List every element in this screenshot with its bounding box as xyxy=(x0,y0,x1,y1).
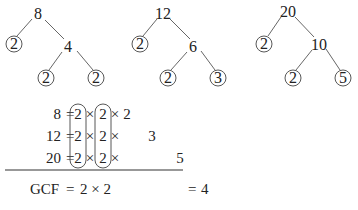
tree3-edge xyxy=(296,50,312,70)
tree2-edge xyxy=(201,51,215,70)
row3-factor5: 5 xyxy=(176,150,184,166)
row2-times: × xyxy=(111,128,119,144)
tree1-root: 8 xyxy=(34,5,42,22)
tree3-composite: 10 xyxy=(311,36,327,53)
tree1-composite: 4 xyxy=(64,38,72,55)
row1-factor2: 2 xyxy=(99,106,107,122)
gcf-label: GCF xyxy=(30,181,59,197)
row1-factor1: 2 xyxy=(74,106,82,122)
tree1-edge xyxy=(45,20,64,39)
gcf-equals: = xyxy=(66,181,74,197)
row3-times: × xyxy=(86,150,94,166)
tree2-edge xyxy=(171,52,187,70)
row2-times: × xyxy=(86,128,94,144)
gcf-factor-tree-diagram: 8 2 4 2 2 12 2 6 2 3 20 2 10 2 5 8 12 20… xyxy=(0,0,358,210)
tree1-prime-leaf: 2 xyxy=(42,69,50,86)
row3-factor2: 2 xyxy=(99,150,107,166)
gcf-expression: 2 × 2 xyxy=(80,181,111,197)
row1-number: 8 xyxy=(54,106,62,122)
tree2-prime-leaf: 3 xyxy=(214,69,222,86)
tree3-prime-leaf: 5 xyxy=(339,69,347,86)
tree2-edge xyxy=(170,19,190,39)
row2-factor4: 3 xyxy=(148,128,156,144)
row1-times: × xyxy=(111,106,119,122)
row2-number: 12 xyxy=(46,128,61,144)
tree2-composite: 6 xyxy=(189,38,197,55)
tree3-edge xyxy=(295,17,314,37)
tree2-prime-leaf: 2 xyxy=(136,35,144,52)
row3-times: × xyxy=(111,150,119,166)
tree1-edge xyxy=(49,52,62,70)
row2-factor2: 2 xyxy=(99,128,107,144)
tree2-prime-leaf: 2 xyxy=(164,69,172,86)
row2-factor1: 2 xyxy=(74,128,82,144)
tree3-edge xyxy=(326,49,340,70)
gcf-final-equals: = xyxy=(188,181,196,197)
row1-factor3: 2 xyxy=(123,106,131,122)
tree1-edge xyxy=(17,19,32,36)
tree2-root: 12 xyxy=(155,5,171,22)
tree3-root: 20 xyxy=(280,3,296,20)
tree1-edge xyxy=(77,51,93,70)
tree1-prime-leaf: 2 xyxy=(10,35,18,52)
row1-times: × xyxy=(86,106,94,122)
gcf-value: 4 xyxy=(201,181,209,197)
row3-number: 20 xyxy=(46,150,61,166)
row3-factor1: 2 xyxy=(74,150,82,166)
tree1-prime-leaf: 2 xyxy=(92,69,100,86)
tree3-prime-leaf: 2 xyxy=(289,69,297,86)
tree3-prime-leaf: 2 xyxy=(260,35,268,52)
